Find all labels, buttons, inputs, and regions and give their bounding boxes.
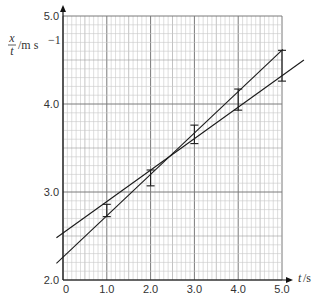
x-tick-label: 2.0 (143, 283, 158, 295)
x-tick-label: 3.0 (187, 283, 202, 295)
y-axis-arrow-icon (60, 5, 66, 12)
y-axis-label-numerator: x (8, 31, 15, 45)
x-axis-label-variable: t (298, 271, 302, 285)
y-axis-label-denominator: t (10, 44, 14, 58)
x-tick-label: 4.0 (231, 283, 246, 295)
x-axis-label-unit: /s (303, 271, 311, 285)
x-tick-label: 1.0 (99, 283, 114, 295)
y-tick-label: 2.0 (44, 274, 59, 286)
y-axis-label-unit: /m s (18, 38, 39, 52)
chart: 01.02.03.04.05.02.03.04.05.0xt/m s−1t/s (0, 0, 325, 296)
y-tick-label: 5.0 (44, 10, 59, 22)
x-tick-label: 0 (63, 283, 69, 295)
y-tick-label: 4.0 (44, 98, 59, 110)
x-tick-label: 5.0 (274, 283, 289, 295)
y-axis-label-exponent: −1 (48, 33, 61, 47)
y-tick-label: 3.0 (44, 186, 59, 198)
